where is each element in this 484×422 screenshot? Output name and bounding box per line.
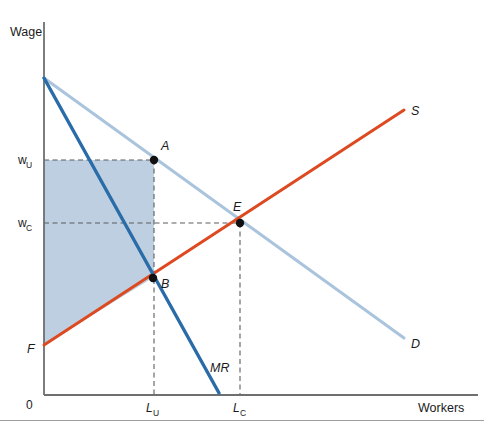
- labor-market-monopsony-diagram: A B E F S D MR Wage Workers 0 w U w C L …: [0, 0, 484, 422]
- point-a-label: A: [160, 139, 169, 153]
- demand-curve-label: D: [411, 337, 420, 351]
- y-axis-title: Wage: [10, 25, 42, 39]
- plot-points: [149, 156, 244, 282]
- supply-curve-label: S: [411, 104, 420, 118]
- union-rent-area: [44, 160, 154, 345]
- x-tick-labels: L U L C: [146, 401, 246, 418]
- x-tick-label-lu: L: [146, 401, 153, 415]
- marginal-revenue-curve-label: MR: [210, 361, 229, 375]
- point-a-marker: [150, 156, 158, 164]
- y-tick-sub-wu: U: [26, 160, 32, 170]
- point-f-label: F: [27, 342, 36, 356]
- point-e-label: E: [233, 200, 242, 214]
- x-tick-label-lc: L: [233, 401, 240, 415]
- origin-label: 0: [26, 398, 33, 412]
- x-tick-sub-lc: C: [240, 408, 246, 418]
- y-tick-sub-wc: C: [26, 223, 32, 233]
- x-tick-sub-lu: U: [153, 408, 159, 418]
- point-b-marker: [149, 274, 157, 282]
- figure-container: A B E F S D MR Wage Workers 0 w U w C L …: [0, 0, 484, 422]
- point-b-label: B: [161, 277, 169, 291]
- point-e-marker: [236, 219, 244, 227]
- x-axis-title: Workers: [418, 401, 464, 415]
- y-tick-labels: w U w C: [17, 153, 32, 233]
